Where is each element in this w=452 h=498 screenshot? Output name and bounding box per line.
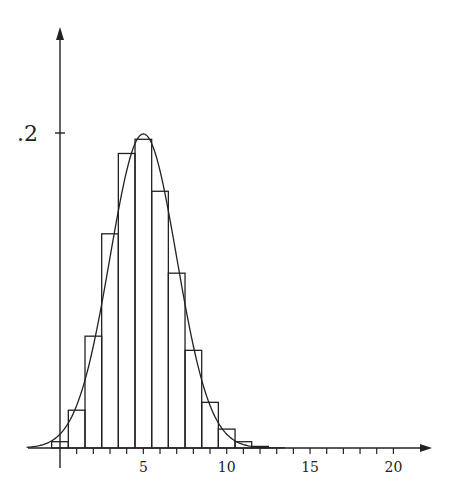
histogram-bar <box>168 273 185 448</box>
x-ticks <box>77 448 394 454</box>
histogram-bar <box>68 410 85 448</box>
histogram-bar <box>185 350 202 448</box>
normal-curve <box>27 134 285 448</box>
histogram-bars <box>52 139 269 448</box>
x-axis-arrow-icon <box>420 444 432 452</box>
x-tick-labels: 5101520 <box>139 459 402 475</box>
histogram-bar <box>202 402 219 448</box>
histogram-chart: .2 5101520 <box>0 0 452 498</box>
histogram-bar <box>102 234 119 448</box>
x-tick-label: 20 <box>384 459 402 475</box>
y-tick-label: .2 <box>17 121 38 146</box>
histogram-bar <box>152 191 169 448</box>
x-tick-label: 5 <box>139 459 148 475</box>
x-tick-label: 15 <box>301 459 319 475</box>
y-axis-arrow-icon <box>56 27 64 40</box>
histogram-bar <box>85 336 102 448</box>
x-tick-label: 10 <box>218 459 236 475</box>
histogram-bar <box>135 139 152 448</box>
axes <box>28 27 432 468</box>
